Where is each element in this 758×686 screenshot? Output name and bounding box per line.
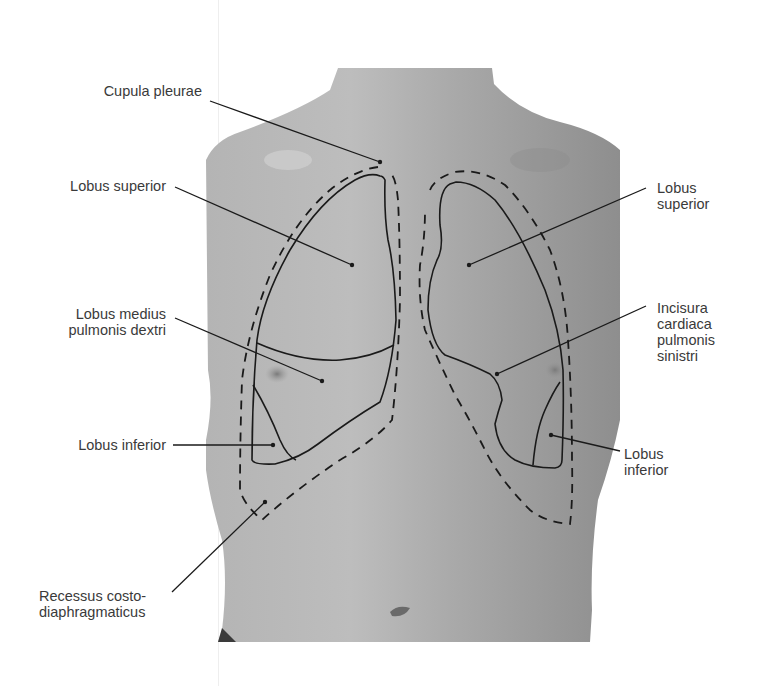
label-lobus-superior-right: Lobus superior xyxy=(30,178,166,194)
label-cupula-pleurae: Cupula pleurae xyxy=(60,83,202,99)
label-lobus-inferior-right: Lobus inferior xyxy=(20,437,166,453)
label-incisura-cardiaca: Incisura cardiaca pulmonis sinistri xyxy=(657,300,715,364)
label-lobus-inferior-left: Lobus inferior xyxy=(624,446,668,478)
label-lobus-medius: Lobus medius pulmonis dextri xyxy=(20,306,166,338)
right-nipple xyxy=(265,365,289,383)
label-lobus-superior-left: Lobus superior xyxy=(657,180,709,212)
label-recessus-costodiaphragmaticus: Recessus costo- diaphragmaticus xyxy=(39,588,146,620)
chest-illustration xyxy=(0,0,758,686)
